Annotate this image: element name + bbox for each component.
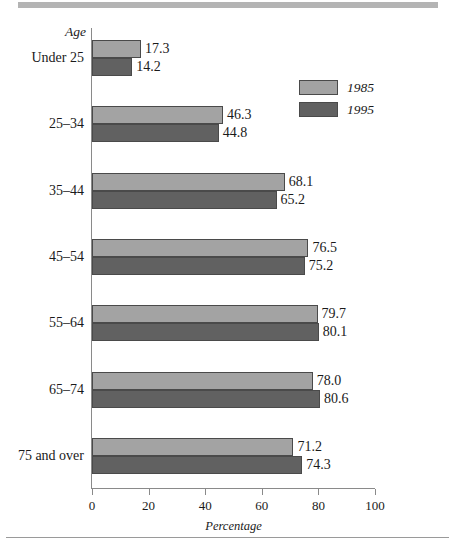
x-axis-tick	[318, 489, 319, 495]
bar-value-label: 46.3	[223, 106, 252, 124]
x-axis-tick	[92, 489, 93, 495]
bar-value-label: 76.5	[308, 239, 337, 257]
legend-label-1995: 1995	[347, 100, 374, 119]
bar-1985-55–64	[92, 305, 318, 323]
x-axis-tick-label: 40	[185, 498, 225, 514]
bar-value-label: 68.1	[285, 173, 314, 191]
bar-value-label: 17.3	[141, 40, 170, 58]
x-axis-tick-label: 80	[298, 498, 338, 514]
bar-value-label: 65.2	[277, 191, 306, 209]
category-label: 55–64	[0, 315, 84, 331]
category-label: 45–54	[0, 249, 84, 265]
bar-value-label: 14.2	[132, 58, 161, 76]
bar-value-label: 79.7	[318, 305, 347, 323]
category-label: Under 25	[0, 50, 84, 66]
x-axis-tick	[205, 489, 206, 495]
bar-value-label: 44.8	[219, 124, 248, 142]
bar-value-label: 78.0	[313, 372, 342, 390]
bottom-decorative-rule	[6, 537, 449, 538]
x-axis-tick-label: 20	[129, 498, 169, 514]
bar-1985-65–74	[92, 372, 313, 390]
bar-1985-Under-25	[92, 40, 141, 58]
category-label: 65–74	[0, 382, 84, 398]
bar-1995-55–64	[92, 323, 319, 341]
category-label: 35–44	[0, 183, 84, 199]
x-axis-tick-label: 100	[355, 498, 395, 514]
legend-swatch-light-icon	[299, 80, 338, 95]
y-axis-title: Age	[0, 24, 98, 40]
chart-legend: 1985 1995	[299, 78, 429, 122]
category-label: 75 and over	[0, 448, 84, 464]
x-axis-tick	[149, 489, 150, 495]
bar-value-label: 74.3	[302, 456, 331, 474]
x-axis-tick-label: 60	[242, 498, 282, 514]
bar-1985-75-and-over	[92, 438, 293, 456]
bar-1995-35–44	[92, 191, 277, 209]
bar-1995-45–54	[92, 257, 305, 275]
bar-1995-Under-25	[92, 58, 132, 76]
category-label: 25–34	[0, 116, 84, 132]
bar-chart-figure: Age 020406080100 17.314.246.344.868.165.…	[0, 0, 455, 558]
bar-1985-35–44	[92, 173, 285, 191]
bar-value-label: 71.2	[293, 438, 322, 456]
x-axis-tick	[262, 489, 263, 495]
bar-1995-75-and-over	[92, 456, 302, 474]
x-axis-line	[91, 488, 375, 489]
x-axis-label: Percentage	[92, 519, 375, 534]
legend-label-1985: 1985	[347, 78, 374, 97]
legend-swatch-dark-icon	[299, 102, 338, 117]
bar-value-label: 80.1	[319, 323, 348, 341]
bar-value-label: 75.2	[305, 257, 334, 275]
x-axis-tick-label: 0	[72, 498, 112, 514]
bar-value-label: 80.6	[320, 390, 349, 408]
bar-1985-45–54	[92, 239, 308, 257]
x-axis-tick	[375, 489, 376, 495]
bar-1995-25–34	[92, 124, 219, 142]
bar-1995-65–74	[92, 390, 320, 408]
legend-item-1995: 1995	[299, 100, 429, 119]
bar-1985-25–34	[92, 106, 223, 124]
legend-item-1985: 1985	[299, 78, 429, 97]
